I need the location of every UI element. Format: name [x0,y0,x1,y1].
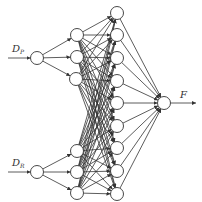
edge-hidden2-output [121,108,161,165]
hidden1-node [70,73,83,86]
edge-input-hidden1 [43,38,72,55]
edge-hidden2-output [120,109,161,188]
edge-hidden2-output [122,62,160,98]
output-node [158,97,171,110]
hidden2-node [111,97,124,110]
edge-hidden2-output [122,108,160,144]
neural-network-diagram: DPDRF [0,0,202,202]
hidden1-node [71,166,84,179]
input-node [31,166,44,179]
hidden2-node [111,142,124,155]
hidden2-node [111,120,124,133]
hidden2-node [111,52,124,65]
hidden2-node [111,188,124,201]
hidden2-node [111,7,124,20]
input-label-r: DR [11,157,25,169]
hidden2-node [111,75,124,88]
output-label: F [179,89,188,100]
input-node [31,52,44,65]
edge-hidden2-output [121,40,161,97]
edge-hidden2-output [123,106,158,123]
edge-input-hidden1 [43,57,70,58]
input-label-p: DP [11,43,25,55]
edge-hidden1-hidden2 [83,193,110,194]
hidden1-node [71,187,84,200]
edge-input-hidden1 [43,175,71,190]
hidden1-node [71,51,84,64]
edge-input-hidden1 [43,154,71,169]
edge-hidden1-hidden2 [83,171,110,172]
edge-input-hidden1 [43,61,71,76]
hidden1-node [71,29,84,42]
hidden2-node [111,29,124,42]
edge-hidden1-hidden2 [83,57,110,58]
hidden1-node [71,145,84,158]
hidden2-node [111,165,124,178]
